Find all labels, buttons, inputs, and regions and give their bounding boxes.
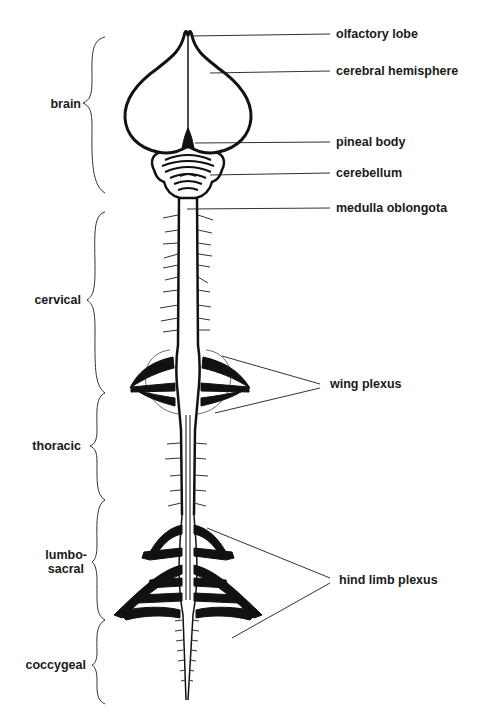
- label-cervical: cervical: [20, 293, 81, 307]
- brain-shape: [125, 32, 251, 199]
- hind-limb-plexus-drawing: [114, 525, 262, 620]
- label-coccygeal: coccygeal: [10, 658, 86, 672]
- label-wing-plexus: wing plexus: [330, 377, 402, 391]
- label-olfactory-lobe: olfactory lobe: [336, 27, 418, 41]
- leader-lines: [187, 34, 330, 638]
- region-braces: [83, 37, 105, 704]
- label-cerebellum: cerebellum: [336, 166, 402, 180]
- label-cerebral-hemisphere: cerebral hemisphere: [336, 64, 458, 78]
- label-lumbosacral-1: lumbo-: [20, 548, 87, 562]
- label-thoracic: thoracic: [20, 439, 81, 453]
- label-pineal-body: pineal body: [336, 135, 405, 149]
- label-medulla-oblongota: medulla oblongota: [336, 201, 447, 215]
- label-brain: brain: [20, 97, 81, 111]
- label-lumbosacral-2: sacral: [20, 562, 84, 576]
- spinal-cord: [176, 198, 199, 700]
- label-hind-limb-plexus: hind limb plexus: [339, 573, 438, 587]
- coccygeal-nerves: [175, 620, 199, 681]
- wing-plexus-drawing: [130, 350, 250, 414]
